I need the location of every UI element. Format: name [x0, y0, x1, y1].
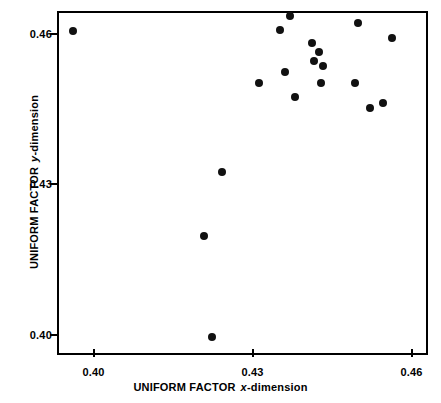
- data-point: [255, 79, 263, 87]
- plot-area-frame: [57, 11, 428, 355]
- data-point: [379, 99, 387, 107]
- data-point: [281, 68, 289, 76]
- data-point: [286, 12, 294, 20]
- y-axis-tick-label: 0.46: [30, 28, 52, 40]
- y-axis-label: UNIFORM FACTORy-dimension: [28, 62, 40, 302]
- x-axis-label-suffix: -dimension: [247, 381, 308, 393]
- data-point: [308, 39, 316, 47]
- data-point: [351, 79, 359, 87]
- data-point: [315, 48, 323, 56]
- scatter-plot-figure: 0.400.430.46 0.400.430.46 UNIFORM FACTOR…: [0, 0, 441, 403]
- x-axis-label-prefix: UNIFORM FACTOR: [133, 381, 235, 393]
- y-axis-tick-label: 0.40: [30, 329, 52, 341]
- data-point: [218, 168, 226, 176]
- x-axis-tick: [411, 349, 413, 357]
- x-axis-tick-label: 0.40: [82, 366, 104, 378]
- x-axis-tick: [93, 349, 95, 357]
- data-point: [354, 19, 362, 27]
- y-axis-label-italic: y: [28, 156, 40, 162]
- y-axis-label-suffix: -dimension: [28, 95, 40, 156]
- x-axis-label: UNIFORM FACTORx-dimension: [0, 381, 441, 393]
- data-point: [388, 34, 396, 42]
- data-point: [69, 27, 77, 35]
- data-point: [317, 79, 325, 87]
- data-point: [200, 232, 208, 240]
- data-point: [310, 57, 318, 65]
- data-point: [319, 62, 327, 70]
- data-point: [276, 26, 284, 34]
- data-point: [208, 333, 216, 341]
- x-axis-tick-label: 0.46: [400, 366, 422, 378]
- data-point: [366, 104, 374, 112]
- x-axis-tick: [252, 349, 254, 357]
- y-axis-label-prefix: UNIFORM FACTOR: [28, 167, 40, 269]
- x-axis-tick-label: 0.43: [241, 366, 263, 378]
- data-point: [291, 93, 299, 101]
